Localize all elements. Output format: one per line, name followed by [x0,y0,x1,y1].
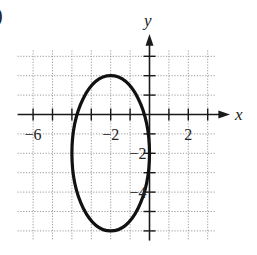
axes [18,34,230,241]
x-tick-label: −6 [25,126,42,143]
y-tick-label: −4 [129,184,146,201]
y-axis-label: y [142,11,152,30]
y-axis-arrow-icon [146,34,154,46]
x-tick-label: −2 [102,126,119,143]
y-tick-label: −2 [129,145,146,162]
part-marker: ) [0,4,3,27]
axis-ticks [33,56,208,231]
x-axis-label: x [234,105,243,124]
x-axis-arrow-icon [218,111,230,119]
grid-lines [18,50,216,240]
tick-labels: −6−22−2−4 [25,126,193,202]
ellipse-graph: −6−22−2−4 x y ) [0,0,257,255]
x-tick-label: 2 [184,126,192,143]
